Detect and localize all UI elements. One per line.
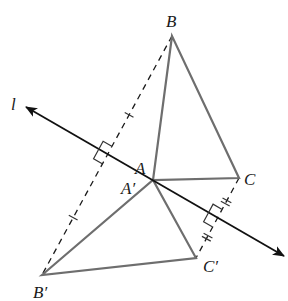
dashed-segment-bb-prime <box>42 36 172 275</box>
label-point-c: C <box>244 170 256 189</box>
label-point-c-prime: C′ <box>203 257 218 276</box>
reflection-diagram: l B A C A′ B′ C′ <box>0 0 288 301</box>
triangle-a-prime-b-prime-c-prime <box>42 180 196 275</box>
triangle-abc <box>153 36 239 180</box>
congruence-and-right-angle-marks <box>69 112 232 241</box>
label-point-a: A <box>134 159 146 178</box>
label-point-b: B <box>166 12 177 31</box>
label-point-a-prime: A′ <box>120 179 135 198</box>
label-point-b-prime: B′ <box>33 283 47 301</box>
label-line-l: l <box>11 95 16 114</box>
